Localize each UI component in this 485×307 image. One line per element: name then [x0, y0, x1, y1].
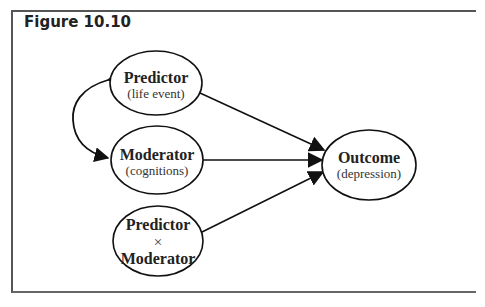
predictor-to-outcome-arrow [200, 93, 324, 150]
interaction-operator: × [154, 234, 162, 250]
node-predictor: Predictor (life event) [110, 51, 202, 115]
interaction-label-bottom: Moderator [121, 250, 196, 267]
node-interaction: Predictor × Moderator [113, 206, 203, 276]
moderation-diagram: Predictor (life event) Moderator (cognit… [0, 0, 485, 307]
predictor-sublabel: (life event) [127, 86, 184, 101]
moderator-label: Moderator [120, 146, 195, 163]
correlation-arrow [73, 80, 108, 158]
interaction-label-top: Predictor [126, 216, 191, 233]
predictor-label: Predictor [124, 69, 189, 86]
moderator-sublabel: (cognitions) [126, 163, 189, 178]
outcome-label: Outcome [338, 149, 400, 166]
outcome-sublabel: (depression) [337, 166, 401, 181]
node-moderator: Moderator (cognitions) [111, 126, 203, 194]
interaction-to-outcome-arrow [200, 172, 323, 233]
node-outcome: Outcome (depression) [322, 130, 416, 200]
